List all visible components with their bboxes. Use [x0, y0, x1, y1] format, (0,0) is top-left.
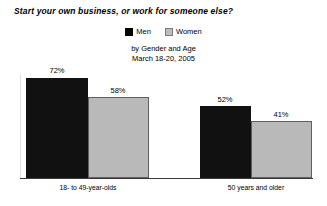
bar-group2-women [251, 121, 312, 178]
group-label-50-and-older: 50 years and older [196, 183, 316, 192]
bar-group1-men [26, 78, 88, 178]
bar-value-group2-men: 52% [209, 95, 241, 104]
group-label-18-to-49: 18- to 49-year-olds [28, 183, 148, 192]
axis-baseline [20, 178, 313, 179]
plot-area: 72% 58% 18- to 49-year-olds 52% 41% 50 y… [0, 0, 327, 206]
bar-group2-men [200, 106, 251, 178]
bar-group1-women [88, 97, 149, 178]
axis-left-line [20, 74, 21, 178]
bar-value-group1-men: 72% [41, 66, 73, 75]
bar-chart: Start your own business, or work for som… [0, 0, 327, 206]
bar-value-group2-women: 41% [265, 110, 297, 119]
bar-value-group1-women: 58% [102, 86, 134, 95]
